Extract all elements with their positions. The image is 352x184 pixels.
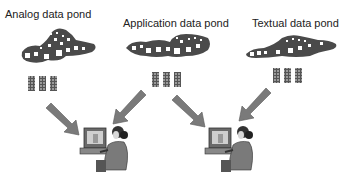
textual-data-blocks bbox=[273, 68, 302, 83]
arrow-application-to-user2-icon bbox=[172, 95, 205, 127]
diagram-canvas bbox=[0, 0, 352, 184]
textual-pond-icon bbox=[246, 35, 336, 58]
user-at-computer-icon-2 bbox=[205, 126, 253, 172]
analog-pond-icon bbox=[22, 28, 96, 62]
application-data-blocks bbox=[152, 72, 181, 87]
arrow-application-to-user1-icon bbox=[113, 90, 146, 124]
application-pond-icon bbox=[126, 34, 210, 57]
arrow-analog-to-user1-icon bbox=[46, 103, 79, 135]
arrow-textual-to-user2-icon bbox=[239, 88, 271, 121]
analog-data-blocks bbox=[28, 76, 57, 91]
user-at-computer-icon-1 bbox=[80, 126, 128, 172]
